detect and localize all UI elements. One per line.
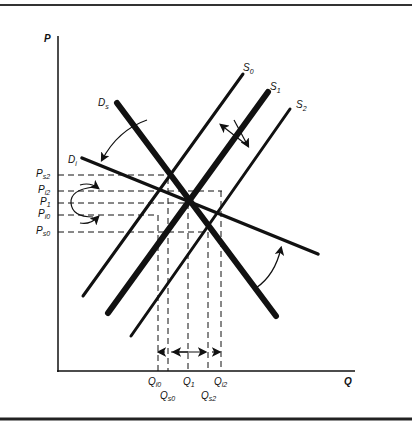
quantity-guides xyxy=(158,178,221,371)
curved-arrow-icon xyxy=(256,248,281,288)
price-label: Ps0 xyxy=(36,225,50,237)
label-ds: Ds xyxy=(98,97,109,110)
price-label: Pi2 xyxy=(38,184,50,196)
x-axis-label: Q xyxy=(344,376,352,387)
price-label: P1 xyxy=(40,196,51,208)
demand-curve-ds xyxy=(117,103,276,316)
arrowhead-icon xyxy=(80,217,98,223)
label-s1: S1 xyxy=(270,81,281,94)
label-s0: S0 xyxy=(243,62,254,75)
quantity-label: Qs2 xyxy=(201,390,216,402)
price-label: Ps2 xyxy=(36,168,50,180)
y-axis-label: P xyxy=(44,33,51,44)
price-label: Pi0 xyxy=(38,208,50,220)
curved-arrow-icon xyxy=(102,120,147,160)
supply-demand-diagram: P Q S0 S1 S2 Ds Di Ps2 Pi2 P1 Pi0 Ps0 Qi… xyxy=(0,0,412,422)
label-di: Di xyxy=(68,154,77,167)
quantity-label: Qi0 xyxy=(148,376,161,388)
quantity-label: Qi2 xyxy=(214,376,227,388)
label-s2: S2 xyxy=(296,99,307,112)
quantity-label: Qs0 xyxy=(160,390,175,402)
quantity-label: Q1 xyxy=(183,376,195,388)
